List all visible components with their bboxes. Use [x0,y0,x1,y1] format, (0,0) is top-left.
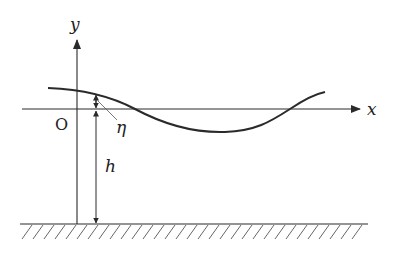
diagram-svg: y x O η h [0,0,396,272]
eta-label: η [116,117,127,137]
origin-label: O [55,115,68,134]
wave-surface-curve [48,88,325,132]
y-axis-label: y [69,14,80,34]
eta-leader-line [98,101,117,120]
x-axis-label: x [367,99,377,119]
wave-diagram: y x O η h [0,0,396,272]
seabed-hatching [22,225,362,239]
depth-h-label: h [105,156,116,176]
